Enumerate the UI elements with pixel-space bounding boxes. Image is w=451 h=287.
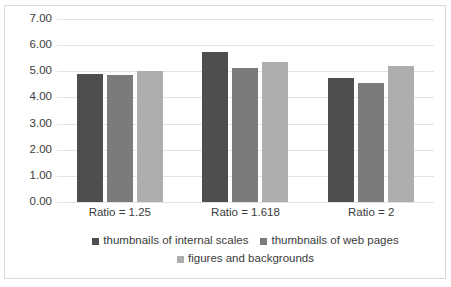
x-axis-category-label: Ratio = 1.25 — [57, 206, 183, 218]
legend-label: thumbnails of internal scales — [103, 235, 248, 247]
bar-group — [183, 19, 309, 202]
y-axis-tick-label: 6.00 — [8, 39, 52, 51]
bar[interactable] — [232, 68, 258, 202]
bar[interactable] — [77, 74, 103, 202]
bar[interactable] — [262, 62, 288, 202]
y-axis-tick-label: 5.00 — [8, 65, 52, 77]
legend-swatch-icon — [260, 238, 267, 245]
y-axis-tick-label: 4.00 — [8, 91, 52, 103]
bar[interactable] — [107, 75, 133, 202]
bar-group — [308, 19, 434, 202]
legend-item[interactable]: thumbnails of web pages — [260, 235, 398, 247]
x-axis: Ratio = 1.25Ratio = 1.618Ratio = 2 — [57, 206, 434, 226]
bar[interactable] — [202, 52, 228, 202]
legend-label: figures and backgrounds — [188, 253, 314, 265]
y-axis-tick-label: 0.00 — [8, 196, 52, 208]
bar[interactable] — [358, 83, 384, 202]
legend: thumbnails of internal scalesthumbnails … — [57, 232, 434, 268]
y-axis-tick-label: 7.00 — [8, 13, 52, 25]
bar[interactable] — [328, 78, 354, 202]
x-axis-category-label: Ratio = 2 — [308, 206, 434, 218]
gridline — [57, 202, 434, 203]
legend-item[interactable]: figures and backgrounds — [177, 253, 314, 265]
bars-layer — [57, 19, 434, 202]
legend-item[interactable]: thumbnails of internal scales — [92, 235, 248, 247]
y-axis-tick-label: 3.00 — [8, 118, 52, 130]
legend-row: figures and backgrounds — [57, 250, 434, 268]
x-axis-category-label: Ratio = 1.618 — [183, 206, 309, 218]
legend-swatch-icon — [177, 256, 184, 263]
y-axis-tick-label: 2.00 — [8, 144, 52, 156]
y-axis-tick-label: 1.00 — [8, 170, 52, 182]
bar[interactable] — [388, 66, 414, 202]
bar[interactable] — [137, 71, 163, 202]
legend-row: thumbnails of internal scalesthumbnails … — [57, 232, 434, 250]
bar-group — [57, 19, 183, 202]
chart-container: 0.001.002.003.004.005.006.007.00 Ratio =… — [4, 5, 446, 279]
legend-swatch-icon — [92, 238, 99, 245]
y-axis: 0.001.002.003.004.005.006.007.00 — [5, 19, 52, 202]
legend-label: thumbnails of web pages — [271, 235, 398, 247]
